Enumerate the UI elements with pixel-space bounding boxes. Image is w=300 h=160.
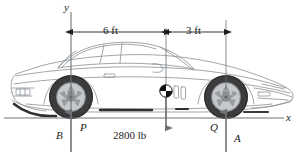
x-axis-label: x [286,112,291,123]
dimension-label-6ft: 6 ft [103,25,118,36]
diagram-canvas [0,0,300,160]
point-label-Q: Q [210,122,218,133]
force-label-A: A [234,133,241,144]
force-label-P: P [80,122,87,133]
center-of-gravity-icon [160,85,172,97]
free-body-diagram: y x 6 ft 3 ft B P 2800 lb Q A [0,0,300,160]
weight-label: 2800 lb [113,130,146,141]
point-label-B: B [56,130,63,141]
dimension-label-3ft: 3 ft [186,25,201,36]
y-axis-label: y [64,2,69,13]
